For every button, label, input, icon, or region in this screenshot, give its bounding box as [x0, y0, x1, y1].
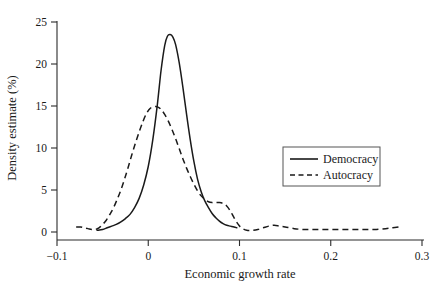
y-tick-label: 25: [36, 16, 48, 28]
x-tick-label: 0: [145, 250, 151, 262]
legend-label-autocracy: Autocracy: [323, 168, 373, 182]
chart-canvas: 0510152025 −0.100.10.20.3 Economic growt…: [0, 0, 440, 289]
y-axis-ticks: 0510152025: [36, 16, 58, 238]
series-line-democracy: [97, 35, 237, 231]
axes: [57, 21, 424, 240]
y-axis-title: Density estimate (%): [5, 75, 19, 181]
legend-label-democracy: Democracy: [323, 152, 378, 166]
y-tick-label: 10: [36, 142, 48, 154]
legend[interactable]: Democracy Autocracy: [283, 147, 380, 186]
y-tick-label: 5: [41, 184, 47, 196]
y-tick-label: 15: [36, 100, 48, 112]
x-tick-label: 0.1: [232, 250, 247, 262]
data-series: [76, 35, 399, 231]
x-tick-label: −0.1: [47, 250, 68, 262]
x-axis-ticks: −0.100.10.20.3: [47, 240, 430, 262]
y-tick-label: 20: [36, 58, 48, 70]
density-plot-figure: 0510152025 −0.100.10.20.3 Economic growt…: [0, 0, 440, 289]
x-axis-title: Economic growth rate: [184, 267, 296, 281]
y-tick-label: 0: [41, 226, 47, 238]
x-tick-label: 0.3: [415, 250, 430, 262]
x-tick-label: 0.2: [324, 250, 339, 262]
